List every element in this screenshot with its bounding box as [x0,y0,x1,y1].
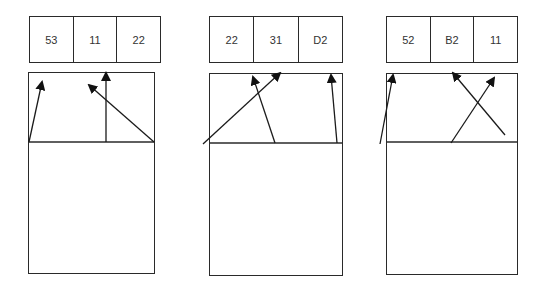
panel-1-arrow-3-icon [89,85,154,142]
panel-3-arrow-2-icon [453,73,505,135]
panel-2-arrow-3-icon [331,75,337,143]
panel-3-arrow-3-icon [451,78,494,143]
panel-3-arrow-1-icon [380,75,393,144]
arrow-overlay [0,0,543,284]
panel-2-arrow-1-icon [203,73,280,144]
panel-1-arrow-1-icon [29,82,42,142]
